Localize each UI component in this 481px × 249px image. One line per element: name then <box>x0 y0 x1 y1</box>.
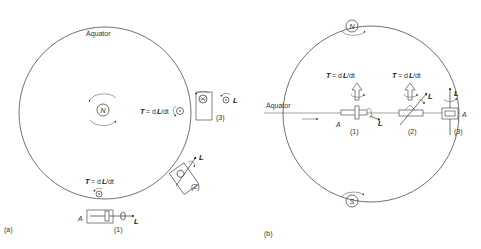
gyroscope-3-b: L A (3) <box>442 88 467 136</box>
svg-text:(1): (1) <box>350 128 359 136</box>
gyroscope-1-a: A L (1) <box>77 210 139 234</box>
svg-text:A: A <box>77 215 83 222</box>
panel-b: Äquator N S T = d L /dt A L ( <box>264 20 467 238</box>
svg-text:L: L <box>454 89 459 98</box>
svg-text:L: L <box>199 153 204 162</box>
svg-text:= d: = d <box>398 72 408 79</box>
svg-text:S: S <box>350 198 355 205</box>
earth-circle-side-view <box>283 26 459 202</box>
svg-text:/dt: /dt <box>161 108 169 115</box>
gyroscope-2-a: L (2) <box>169 153 204 194</box>
svg-text:N: N <box>101 107 107 114</box>
svg-text:A: A <box>335 121 341 128</box>
svg-text:(3): (3) <box>216 114 225 122</box>
panel-a-tag: (a) <box>4 226 13 234</box>
equator-label-b: Äquator <box>266 102 291 110</box>
svg-text:L: L <box>428 92 433 101</box>
svg-text:= d: = d <box>146 108 156 115</box>
svg-text:A: A <box>461 111 467 118</box>
panel-a: Äquator N T = d L /dt L <box>4 27 238 234</box>
torque-label-side: T = d L /dt <box>140 106 184 116</box>
svg-text:(2): (2) <box>408 128 417 136</box>
svg-text:= d: = d <box>332 72 342 79</box>
svg-text:/dt: /dt <box>413 72 421 79</box>
gyroscope-earth-diagram: Äquator N T = d L /dt L <box>0 0 481 249</box>
panel-b-tag: (b) <box>264 230 273 238</box>
svg-text:/dt: /dt <box>106 178 114 185</box>
north-pole-icon-b: N <box>342 20 365 35</box>
svg-text:N: N <box>350 23 356 30</box>
gyroscope-1-b: T = d L /dt A L (1) <box>326 71 383 136</box>
svg-text:= d: = d <box>91 178 101 185</box>
svg-text:L: L <box>233 96 238 105</box>
svg-text:(2): (2) <box>191 183 200 191</box>
gyroscope-2-b: T = d L /dt L (2) <box>392 71 433 136</box>
gyroscope-3-a: L (3) <box>196 91 238 122</box>
svg-text:L: L <box>378 119 383 128</box>
svg-text:(3): (3) <box>454 128 463 136</box>
equator-label-a: Äquator <box>86 30 111 38</box>
north-pole-rotation-icon: N <box>90 94 116 126</box>
svg-text:(1): (1) <box>114 226 123 234</box>
torque-label-bottom: T = d L /dt <box>85 177 114 197</box>
svg-text:L: L <box>134 217 139 226</box>
svg-text:/dt: /dt <box>347 72 355 79</box>
south-pole-icon-b: S <box>342 192 364 207</box>
